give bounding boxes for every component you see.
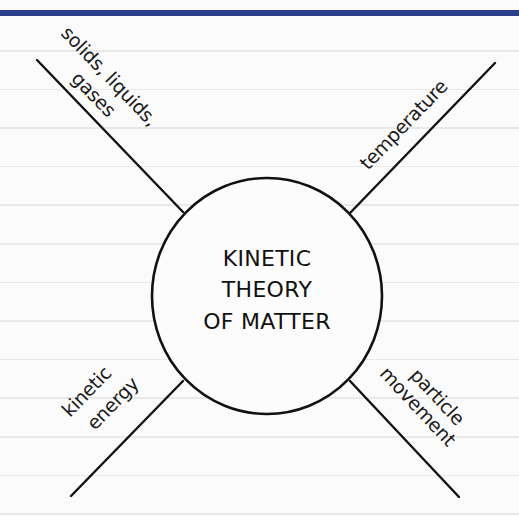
spider-diagram: KINETIC THEORY OF MATTER solids, liquids… bbox=[0, 0, 519, 517]
center-line-1: KINETIC bbox=[223, 246, 312, 271]
branch-label-bottom-right: particle movement bbox=[376, 348, 476, 451]
center-line-3: OF MATTER bbox=[203, 309, 331, 334]
center-line-2: THEORY bbox=[221, 277, 313, 302]
branch-label-bottom-left: kinetic energy bbox=[57, 354, 143, 440]
branch-line-top-right bbox=[350, 63, 495, 213]
